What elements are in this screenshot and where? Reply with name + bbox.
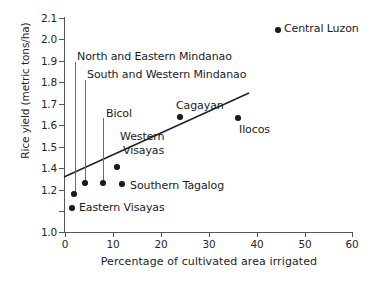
- x-tick-mark: [257, 232, 258, 237]
- x-tick-label-0: 0: [50, 239, 80, 250]
- y-tick-text: 1.8: [31, 77, 57, 88]
- y-tick-label-1-0-upper: [27, 206, 57, 217]
- x-tick-label-30: 30: [194, 239, 224, 250]
- y-tick-text: 1.4: [31, 163, 57, 174]
- y-tick-label-2-1: 2.1: [27, 13, 57, 24]
- x-tick-label-50: 50: [290, 239, 320, 250]
- label-south-and-western-mindanao: South and Western Mindanao: [87, 69, 246, 82]
- data-point-western-visayas: [114, 164, 120, 170]
- y-tick-mark: [59, 125, 65, 126]
- y-tick-mark: [59, 190, 65, 191]
- y-tick-mark: [59, 61, 65, 62]
- label-ilocos: Ilocos: [239, 124, 270, 137]
- leader-line-bicol: [103, 118, 104, 182]
- y-tick-text: 1.5: [31, 142, 57, 153]
- data-point-southern-tagalog: [119, 181, 125, 187]
- label-western-visayas-line1: Western: [120, 131, 164, 144]
- x-tick-mark: [209, 232, 210, 237]
- data-point-central-luzon: [275, 27, 281, 33]
- leader-line-south-western-mindanao: [85, 80, 86, 182]
- y-tick-mark: [59, 104, 65, 105]
- leader-line-north-eastern-mindanao: [75, 62, 76, 193]
- x-tick-label-20: 20: [146, 239, 176, 250]
- label-north-and-eastern-mindanao: North and Eastern Mindanao: [77, 51, 232, 64]
- data-point-eastern-visayas: [69, 205, 75, 211]
- x-tick-mark: [161, 232, 162, 237]
- y-tick-mark: [59, 82, 65, 83]
- y-tick-label-1-8: 1.8: [27, 77, 57, 88]
- scatter-chart: 2.1 2.0 1.9 1.8 1.7 1.6 1.5 1.4 1.2 1.0 …: [0, 0, 372, 286]
- label-southern-tagalog: Southern Tagalog: [130, 180, 224, 193]
- y-tick-text: 2.0: [31, 34, 57, 45]
- data-point-south-and-western-mindanao: [82, 180, 88, 186]
- y-tick-mark: [59, 147, 65, 148]
- x-tick-label-60: 60: [337, 239, 367, 250]
- x-tick-label-10: 10: [98, 239, 128, 250]
- y-tick-label-1-9: 1.9: [27, 56, 57, 67]
- y-tick-text: 1.0: [31, 227, 57, 238]
- label-western-visayas-line2: Visayas: [123, 145, 164, 158]
- y-tick-text: 1.2: [31, 185, 57, 196]
- y-tick-label-1-4: 1.4: [27, 163, 57, 174]
- y-tick-mark: [59, 39, 65, 40]
- label-bicol: Bicol: [106, 108, 132, 121]
- label-eastern-visayas: Eastern Visayas: [79, 202, 165, 215]
- y-tick-mark: [59, 211, 65, 212]
- x-tick-mark: [65, 232, 66, 237]
- label-central-luzon: Central Luzon: [284, 23, 359, 36]
- y-tick-label-2-0: 2.0: [27, 34, 57, 45]
- label-cagayan: Cagayan: [176, 100, 224, 113]
- y-tick-label-1-2: 1.2: [27, 185, 57, 196]
- x-tick-mark: [352, 232, 353, 237]
- data-point-ilocos: [235, 115, 241, 121]
- y-tick-text: 1.6: [31, 120, 57, 131]
- x-axis-title: Percentage of cultivated area irrigated: [64, 256, 354, 268]
- y-tick-label-1-7: 1.7: [27, 99, 57, 110]
- y-tick-label-1-6: 1.6: [27, 120, 57, 131]
- y-tick-mark: [59, 18, 65, 19]
- x-tick-label-40: 40: [242, 239, 272, 250]
- y-tick-text: 1.7: [31, 99, 57, 110]
- y-tick-mark: [59, 168, 65, 169]
- data-point-north-and-eastern-mindanao: [71, 191, 77, 197]
- x-tick-mark: [305, 232, 306, 237]
- data-point-bicol: [100, 180, 106, 186]
- y-tick-label-1-5: 1.5: [27, 142, 57, 153]
- y-tick-text: 2.1: [31, 13, 57, 24]
- data-point-cagayan: [177, 114, 183, 120]
- y-tick-label-1-0: 1.0: [27, 227, 57, 238]
- y-axis-title: Rice yield (metric tons/ha): [20, 6, 31, 176]
- y-tick-text: 1.9: [31, 56, 57, 67]
- x-tick-mark: [113, 232, 114, 237]
